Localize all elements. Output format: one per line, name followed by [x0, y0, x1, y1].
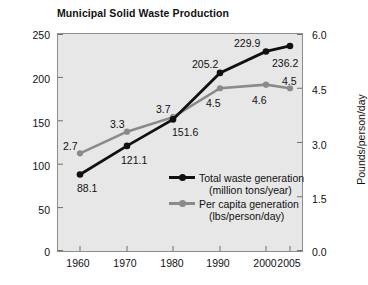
data-label-per-capita-1960: 2.7 — [63, 141, 78, 151]
data-label-total-1960: 88.1 — [77, 183, 97, 193]
x-axis-tick-1970: 1970 — [105, 258, 145, 268]
y-axis-right-tick-6: 6.0 — [312, 30, 346, 40]
y-axis-right-tick-0: 0.0 — [312, 247, 346, 257]
y-axis-left-tick-100: 100 — [14, 161, 50, 171]
y-axis-left-tick-200: 200 — [14, 74, 50, 84]
legend-line-marker-black — [169, 176, 195, 179]
legend-item-per-capita-generation: Per capita generation (lbs/person/day) — [169, 198, 301, 222]
x-axis-tick-1980: 1980 — [152, 258, 192, 268]
legend-label-total-line2: (million tons/year) — [209, 184, 301, 196]
chart-figure: Municipal Solid Waste Production Million… — [0, 0, 368, 285]
data-label-per-capita-1990: 4.5 — [206, 98, 221, 108]
x-axis-tick-1990: 1990 — [198, 258, 238, 268]
data-label-total-2005: 236.2 — [272, 58, 298, 68]
data-label-per-capita-1980: 3.7 — [156, 104, 171, 114]
data-label-per-capita-1970: 3.3 — [110, 119, 125, 129]
legend-label-capita-line1: Per capita generation — [199, 198, 301, 210]
y-axis-left-tick-250: 250 — [14, 30, 50, 40]
legend-label-total-line1: Total waste generation — [199, 172, 301, 184]
x-axis-tick-1960: 1960 — [58, 258, 98, 268]
y-axis-right-tick-1-5: 1.5 — [312, 194, 346, 204]
data-label-per-capita-2005: 4.5 — [282, 76, 297, 86]
data-label-total-1980: 151.6 — [172, 127, 198, 137]
chart-legend: Total waste generation (million tons/yea… — [169, 172, 301, 222]
plot-area: Total waste generation (million tons/yea… — [57, 33, 303, 252]
y-axis-left-tick-150: 150 — [14, 118, 50, 128]
y-axis-right-tick-3: 3.0 — [312, 140, 346, 150]
chart-title: Municipal Solid Waste Production — [57, 7, 229, 19]
y-axis-right-title: Pounds/person/day — [354, 30, 368, 249]
legend-label-capita-line2: (lbs/person/day) — [209, 210, 301, 222]
data-label-per-capita-2000: 4.6 — [252, 95, 267, 105]
y-axis-left-tick-50: 50 — [14, 205, 50, 215]
data-label-total-1990: 205.2 — [192, 59, 218, 69]
x-axis-tick-2005: 2005 — [269, 258, 309, 268]
data-label-total-2000: 229.9 — [234, 38, 260, 48]
y-axis-right-tick-4-5: 4.5 — [312, 85, 346, 95]
legend-item-total-waste-generation: Total waste generation (million tons/yea… — [169, 172, 301, 196]
legend-line-marker-gray — [169, 202, 195, 205]
y-axis-left-tick-0: 0 — [14, 247, 50, 257]
data-label-total-1970: 121.1 — [121, 155, 147, 165]
